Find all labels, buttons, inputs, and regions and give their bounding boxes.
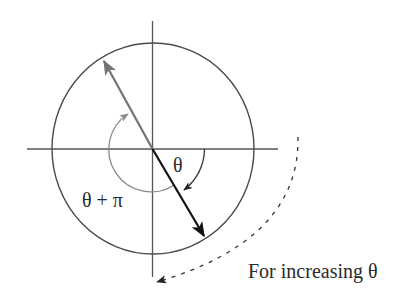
theta-plus-pi-arc — [109, 114, 174, 192]
direction-note-label: For increasing θ — [248, 260, 378, 283]
theta-plus-pi-label: θ + π — [82, 189, 123, 211]
polar-angle-diagram: θ θ + π For increasing θ — [0, 0, 420, 299]
theta-label: θ — [173, 154, 183, 176]
theta-arc — [184, 149, 205, 190]
